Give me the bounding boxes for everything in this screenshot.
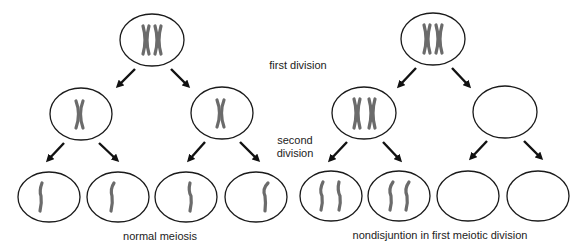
gamete-cell [18,172,80,222]
nondisjunction-caption: nondisjuntion in first meiotic division [335,228,545,242]
arrow-icon [48,143,64,160]
daughter-cell-empty [473,86,537,138]
gamete-cell [225,172,287,222]
arrow-icon [383,142,400,160]
chromatid-icon [40,183,42,211]
gamete-cell-empty [437,171,499,221]
arrow-icon [452,68,469,86]
arrow-icon [99,143,117,160]
arrow-icon [330,142,347,160]
gamete-cell [87,172,149,222]
gamete-cell [300,171,362,221]
second-division-label-line2: division [270,146,320,160]
normal-meiosis-caption: normal meiosis [100,229,220,243]
nondisjunction-panel [300,13,569,221]
chromatid-icon [321,182,323,210]
parent-cell [401,13,465,65]
arrow-icon [171,69,188,86]
normal-meiosis-panel [18,14,287,222]
gamete-cell [155,172,217,222]
daughter-cell [191,87,253,139]
parent-cell [120,14,184,66]
arrow-icon [189,142,205,160]
arrow-icon [524,141,541,158]
second-division-label-line1: second [270,133,320,147]
meiosis-diagram [0,0,588,252]
daughter-cell [50,88,112,140]
arrow-icon [471,141,487,158]
gamete-cell-empty [507,171,569,221]
arrow-icon [240,142,258,160]
daughter-cell-disomic [332,87,396,139]
gamete-cell [368,171,430,221]
first-division-label: first division [258,58,338,72]
arrow-icon [118,69,135,86]
arrow-icon [399,68,416,86]
